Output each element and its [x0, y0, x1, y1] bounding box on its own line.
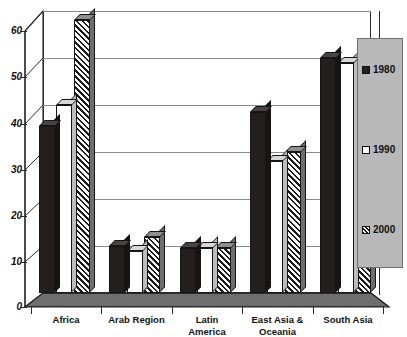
legend-item-2000[interactable]: 2000 [362, 224, 395, 235]
legend-swatch-1990-icon [362, 146, 370, 154]
x-tick-0 [31, 306, 32, 314]
bar-front-face [320, 58, 336, 293]
x-axis-label-east-asia-oceania: East Asia & Oceania [242, 314, 313, 337]
x-axis-line [24, 306, 384, 307]
x-axis-label-line: Africa [31, 314, 101, 326]
legend: 1980 1990 2000 [357, 38, 403, 268]
bar-front-face [180, 248, 196, 293]
legend-stem-bottom [379, 267, 380, 295]
bar-front-face [250, 112, 266, 293]
legend-item-1980[interactable]: 1980 [362, 64, 395, 75]
x-tick-5 [383, 306, 384, 314]
legend-stem-top [379, 11, 380, 39]
x-tick-3 [242, 306, 243, 314]
legend-label-1980: 1980 [373, 64, 395, 75]
x-axis-label-line: America [172, 326, 242, 337]
x-tick-1 [101, 306, 102, 314]
x-axis-label-south-asia: South Asia [313, 314, 383, 326]
legend-item-1990[interactable]: 1990 [362, 144, 395, 155]
top-crop-edge [0, 0, 407, 4]
x-axis-label-line: Arab Region [101, 314, 172, 326]
legend-swatch-1980-icon [362, 66, 370, 74]
x-axis-label-line: Latin [172, 314, 242, 326]
legend-label-2000: 2000 [373, 224, 395, 235]
x-tick-2 [172, 306, 173, 314]
x-axis-label-line: East Asia & [242, 314, 313, 326]
bars-layer [0, 0, 407, 337]
x-axis-label-africa: Africa [31, 314, 101, 326]
bar-chart: 60 50 40 30 20 10 0 Africa Arab Region L… [0, 0, 407, 337]
x-axis-label-latin-america: Latin America [172, 314, 242, 337]
bar-front-face [39, 126, 55, 293]
bar-front-face [109, 246, 125, 293]
x-tick-4 [313, 306, 314, 314]
legend-label-1990: 1990 [373, 144, 395, 155]
x-axis-label-line: South Asia [313, 314, 383, 326]
x-axis-label-arab-region: Arab Region [101, 314, 172, 326]
legend-swatch-2000-icon [362, 226, 370, 234]
x-axis-label-line: Oceania [242, 326, 313, 337]
